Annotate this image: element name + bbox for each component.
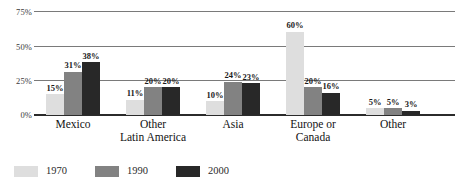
legend-swatch-2000 <box>176 166 200 177</box>
bar-eu-1990[interactable] <box>304 87 322 115</box>
bar-chart-figure: 75% 50% 25% 0% 15% 31% 38% <box>0 0 473 191</box>
bar-group-mexico: 15% 31% 38% <box>46 8 100 115</box>
bar-slot-other-2000: 3% <box>402 8 420 115</box>
category-label-ola-line2: Latin America <box>120 131 186 143</box>
legend-label-2000: 2000 <box>208 166 229 177</box>
y-tick-25: 25% <box>2 77 32 86</box>
bar-slot-asia-1970: 10% <box>206 8 224 115</box>
bar-slot-ola-2000: 20% <box>162 8 180 115</box>
bar-asia-2000[interactable] <box>242 83 260 115</box>
bar-slot-mexico-1990: 31% <box>64 8 82 115</box>
legend-swatch-1970 <box>14 166 38 177</box>
bar-label-other-2000: 3% <box>405 100 418 109</box>
category-label-mexico-text: Mexico <box>55 118 90 130</box>
bar-slot-asia-1990: 24% <box>224 8 242 115</box>
legend-label-1990: 1990 <box>127 166 148 177</box>
legend-item-2000[interactable]: 2000 <box>176 166 229 177</box>
category-label-asia: Asia <box>203 118 263 131</box>
category-label-other: Other <box>363 118 423 131</box>
category-label-ola-line1: Other <box>140 118 166 130</box>
category-label-europe-canada: Europe or Canada <box>276 118 350 143</box>
legend-item-1970[interactable]: 1970 <box>14 166 67 177</box>
y-axis: 75% 50% 25% 0% <box>0 8 32 115</box>
bar-ola-2000[interactable] <box>162 87 180 115</box>
bar-other-2000[interactable] <box>402 111 420 115</box>
bar-asia-1970[interactable] <box>206 101 224 115</box>
legend-label-1970: 1970 <box>46 166 67 177</box>
y-tick-50: 50% <box>2 43 32 52</box>
bar-label-asia-1970: 10% <box>207 91 224 100</box>
bar-group-other-latin-america: 11% 20% 20% <box>126 8 180 115</box>
bar-label-ola-1990: 20% <box>145 77 162 86</box>
category-label-asia-text: Asia <box>222 118 243 130</box>
bar-slot-other-1990: 5% <box>384 8 402 115</box>
bar-label-eu-1970: 60% <box>287 21 304 30</box>
bar-other-1990[interactable] <box>384 108 402 115</box>
bar-slot-ola-1990: 20% <box>144 8 162 115</box>
category-label-eu-line1: Europe or <box>290 118 336 130</box>
bar-label-other-1970: 5% <box>369 98 382 107</box>
bar-slot-ola-1970: 11% <box>126 8 144 115</box>
category-label-other-latin-america: Other Latin America <box>113 118 193 143</box>
bar-label-mexico-1990: 31% <box>65 61 82 70</box>
category-label-mexico: Mexico <box>43 118 103 131</box>
bar-label-mexico-1970: 15% <box>47 84 64 93</box>
bar-slot-eu-2000: 16% <box>322 8 340 115</box>
bar-label-eu-1990: 20% <box>305 77 322 86</box>
category-label-eu-line2: Canada <box>296 131 330 143</box>
bar-other-1970[interactable] <box>366 108 384 115</box>
bar-asia-1990[interactable] <box>224 82 242 115</box>
bar-group-europe-canada: 60% 20% 16% <box>286 8 340 115</box>
bar-ola-1970[interactable] <box>126 100 144 115</box>
y-tick-75: 75% <box>2 8 32 17</box>
bar-label-asia-2000: 23% <box>243 73 260 82</box>
bar-eu-1970[interactable] <box>286 32 304 115</box>
bar-slot-mexico-2000: 38% <box>82 8 100 115</box>
bar-group-other: 5% 5% 3% <box>366 8 420 115</box>
bar-ola-1990[interactable] <box>144 87 162 115</box>
bar-mexico-1990[interactable] <box>64 72 82 115</box>
bar-mexico-1970[interactable] <box>46 94 64 115</box>
bar-slot-other-1970: 5% <box>366 8 384 115</box>
chart-legend: 1970 1990 2000 <box>14 163 257 179</box>
bar-slot-mexico-1970: 15% <box>46 8 64 115</box>
category-labels: Mexico Other Latin America Asia Europe o… <box>34 118 455 148</box>
bars-layer: 15% 31% 38% 11% 20% 20% <box>34 8 455 115</box>
bar-slot-eu-1970: 60% <box>286 8 304 115</box>
bar-slot-eu-1990: 20% <box>304 8 322 115</box>
legend-swatch-1990 <box>95 166 119 177</box>
y-tick-0: 0% <box>2 111 32 120</box>
bar-group-asia: 10% 24% 23% <box>206 8 260 115</box>
bar-label-ola-1970: 11% <box>127 89 144 98</box>
bar-label-ola-2000: 20% <box>163 77 180 86</box>
bar-label-other-1990: 5% <box>387 98 400 107</box>
bar-label-mexico-2000: 38% <box>83 52 100 61</box>
bar-label-asia-1990: 24% <box>225 71 242 80</box>
bar-slot-asia-2000: 23% <box>242 8 260 115</box>
bar-mexico-2000[interactable] <box>82 62 100 115</box>
bar-label-eu-2000: 16% <box>323 82 340 91</box>
legend-item-1990[interactable]: 1990 <box>95 166 148 177</box>
category-label-other-text: Other <box>380 118 406 130</box>
bar-eu-2000[interactable] <box>322 93 340 115</box>
